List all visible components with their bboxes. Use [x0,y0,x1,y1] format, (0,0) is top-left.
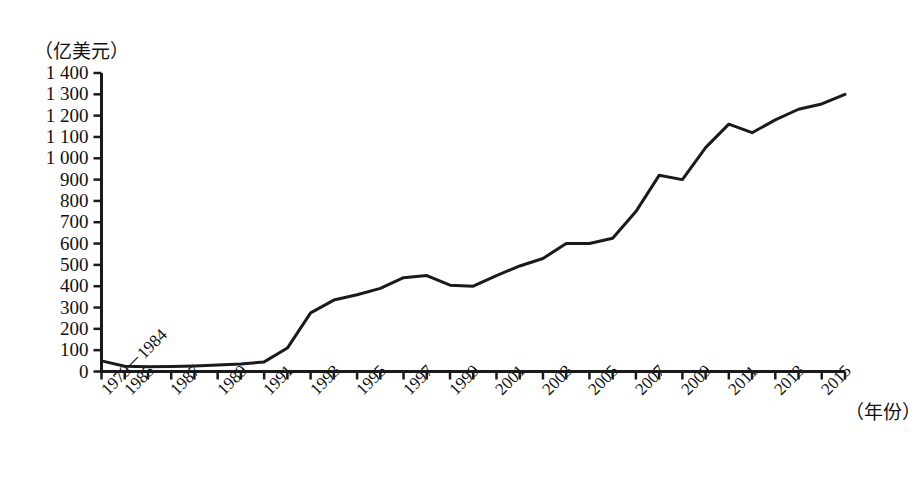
chart-figure: （亿美元） （年份） 01002003004005006007008009001… [0,0,917,496]
axis-lines [100,73,845,372]
data-series-line [102,94,846,366]
line-chart-plot [0,0,917,496]
